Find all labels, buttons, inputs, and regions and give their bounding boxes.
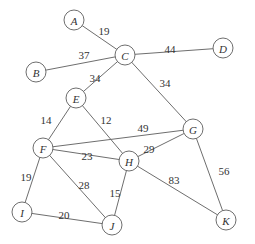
edge-weight-h-k: 83 <box>169 174 181 186</box>
node-g: G <box>183 119 203 139</box>
node-label: B <box>33 67 40 79</box>
edge-weight-f-g: 49 <box>138 122 150 134</box>
node-e: E <box>66 88 86 108</box>
edge-weight-f-h: 23 <box>82 150 94 162</box>
edge-h-k <box>129 161 226 220</box>
graph-diagram: 19374434341412492329192815208356 ABCDEFG… <box>0 0 255 244</box>
node-c: C <box>115 45 135 65</box>
node-label: F <box>39 143 47 155</box>
node-i: I <box>12 202 32 222</box>
node-label: C <box>121 50 129 62</box>
node-h: H <box>119 151 139 171</box>
edge-weight-c-e: 34 <box>90 72 102 84</box>
edge-weight-e-h: 12 <box>101 114 112 126</box>
node-j: J <box>102 215 122 235</box>
edge-weight-c-g: 34 <box>160 77 172 89</box>
edge-weight-i-j: 20 <box>59 209 71 221</box>
edge-weight-b-c: 37 <box>79 49 91 61</box>
node-label: H <box>124 156 134 168</box>
edge-weight-f-i: 19 <box>21 171 33 183</box>
node-label: E <box>72 93 80 105</box>
node-f: F <box>33 138 53 158</box>
node-label: D <box>218 43 227 55</box>
edge-f-g <box>43 129 193 148</box>
edge-weight-h-j: 15 <box>110 187 122 199</box>
edge-weight-a-c: 19 <box>99 25 111 37</box>
node-a: A <box>64 10 84 30</box>
node-b: B <box>26 62 46 82</box>
node-k: K <box>216 210 236 230</box>
edge-c-g <box>125 55 193 129</box>
node-label: G <box>189 124 197 136</box>
node-d: D <box>213 38 233 58</box>
edge-weight-c-d: 44 <box>165 43 177 55</box>
edge-weight-g-h: 29 <box>144 143 156 155</box>
edge-weight-g-k: 56 <box>219 165 231 177</box>
edge-weight-f-j: 28 <box>79 179 91 191</box>
edge-weight-e-f: 14 <box>41 114 53 126</box>
edge-f-j <box>43 148 112 225</box>
node-label: K <box>221 215 230 227</box>
node-label: A <box>70 15 78 27</box>
